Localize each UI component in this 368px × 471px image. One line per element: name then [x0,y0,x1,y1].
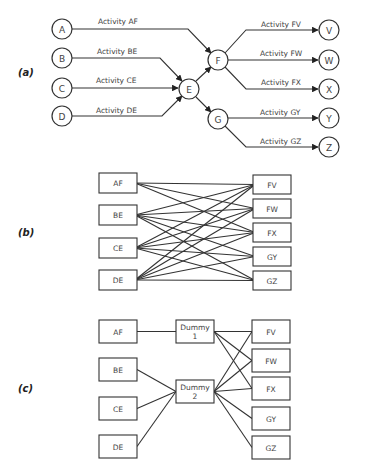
node-w: W [319,50,339,70]
activity-label-de: Activity DE [96,106,137,115]
edge-b-be-fv [135,185,255,216]
box-b-gz-label: GZ [267,277,278,286]
node-x-label: X [326,85,332,95]
panel-a: (a) Activity AF Activity BE Activity CE … [18,17,339,157]
panel-b-left-boxes: AFBECEDE [99,173,137,290]
edge-c-d1-fw [214,332,252,361]
panel-b-label: (b) [18,227,34,238]
node-d-label: D [59,112,66,122]
node-y: Y [319,108,339,128]
box-b-fv: FV [253,175,291,194]
edge-b-ce-fv [135,185,255,249]
box-b-fv-label: FV [267,181,277,190]
box-c-fv-label: FV [266,328,276,337]
edge-c-d2-fx [214,389,252,392]
box-b-fw: FW [253,199,291,218]
edge-b-af-fv [135,183,255,185]
box-c-de-label: DE [113,443,124,452]
box-c-de: DE [99,435,137,458]
box-b-af-label: AF [113,179,122,188]
node-z-label: Z [326,143,332,153]
node-a: A [52,19,72,39]
edge-c-d2-gy [214,392,252,419]
node-f: F [208,50,228,70]
edge-b-be-gy [135,215,255,257]
panel-a-label: (a) [18,67,34,78]
box-b-fx: FX [253,223,291,242]
box-c-ce-label: CE [113,405,123,414]
box-b-ce: CE [99,238,137,258]
box-c-ce: CE [99,397,137,420]
box-b-fx-label: FX [267,229,276,238]
edge-b-ce-fx [135,233,255,249]
node-c: C [52,78,72,98]
panel-c: (c) AFBECEDE Dummy1Dummy2 FVFWFXGYGZ [18,320,290,459]
box-c-af: AF [99,320,137,343]
edge-b-de-fw [135,209,255,281]
panel-c-left-boxes: AFBECEDE [99,320,137,458]
node-e: E [179,79,199,99]
box-c-gz-label: GZ [266,444,277,453]
activity-network-diagrams: (a) Activity AF Activity BE Activity CE … [0,0,368,471]
box-c-be-label: BE [113,366,123,375]
edge-b-ce-gy [135,248,255,257]
edge-b-de-gz [135,280,255,281]
activity-label-ce: Activity CE [96,76,137,85]
node-f-label: F [215,56,220,66]
activity-label-fv: Activity FV [261,20,302,29]
edge-b-de-fv [135,185,255,281]
box-b-gz: GZ [253,271,291,290]
box-c-dummy-1: Dummy1 [176,320,214,343]
box-c-fx-label: FX [266,385,275,394]
edge-c-be-d2 [137,370,176,392]
box-b-ce-label: CE [113,244,123,253]
node-z: Z [319,137,339,157]
panel-b: (b) AFBECEDE FVFWFXGYGZ [18,173,291,290]
node-w-label: W [325,56,334,66]
node-b: B [52,48,72,68]
node-y-label: Y [325,114,332,124]
edge-e-g [196,97,211,112]
node-b-label: B [59,54,65,64]
edge-b-de-gy [135,257,255,281]
box-c-gy: GY [252,407,290,430]
box-b-gy-label: GY [267,253,277,262]
box-b-de: DE [99,270,137,290]
node-c-label: C [59,84,65,94]
node-g: G [208,109,228,129]
panel-b-edges [135,183,255,281]
node-x: X [319,79,339,99]
node-a-label: A [59,25,66,35]
box-c-fw: FW [252,349,290,372]
panel-c-dummy-boxes: Dummy1Dummy2 [176,320,214,403]
box-b-de-label: DE [113,276,124,285]
edge-b-af-fw [135,183,255,209]
box-b-fw-label: FW [266,205,278,214]
box-c-fw-label: FW [265,357,277,366]
edge-c-d2-fw [214,361,252,392]
box-c-dummy-1-label-1: Dummy [180,323,210,332]
box-b-gy: GY [253,247,291,266]
box-c-dummy-2-label-2: 2 [193,392,198,401]
box-c-fx: FX [252,377,290,400]
activity-label-fx: Activity FX [261,78,301,87]
node-d: D [52,106,72,126]
activity-label-gz: Activity GZ [260,137,301,146]
panel-c-right-boxes: FVFWFXGYGZ [252,320,290,459]
box-c-dummy-2: Dummy2 [176,380,214,403]
activity-label-fw: Activity FW [260,49,303,58]
box-c-fv: FV [252,320,290,343]
panel-b-right-boxes: FVFWFXGYGZ [253,175,291,290]
box-c-af-label: AF [113,328,122,337]
box-b-af: AF [99,173,137,193]
box-c-be: BE [99,358,137,381]
activity-label-gy: Activity GY [260,108,301,117]
edge-b-ce-gz [135,248,255,281]
node-g-label: G [215,115,222,125]
box-b-be-label: BE [113,211,123,220]
edge-a-f [72,29,211,53]
box-b-be: BE [99,205,137,225]
box-c-gy-label: GY [266,415,276,424]
box-c-dummy-2-label-1: Dummy [180,383,210,392]
edge-b-de-fx [135,233,255,281]
